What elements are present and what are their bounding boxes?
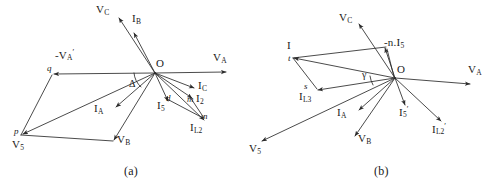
label-a-negVA: -VA′	[55, 49, 74, 62]
construction-a-pq	[21, 75, 52, 135]
label-b-VC: VC	[339, 12, 352, 24]
label-a-I5: I5	[157, 100, 165, 112]
angle-arc-b-gamma	[370, 76, 373, 85]
label-a-V5: V5	[12, 139, 24, 151]
point-a-q: q	[47, 64, 52, 73]
point-b-s: s	[304, 82, 308, 91]
label-b-IA: IA	[337, 107, 346, 119]
caption-a: (a)	[124, 165, 138, 177]
vector-a-VC	[119, 18, 155, 73]
point-a-d: d	[166, 94, 171, 103]
label-b-VA: VA	[468, 64, 482, 76]
label-b-nI5: -n.I5	[384, 37, 404, 49]
label-b-V5: V5	[249, 143, 261, 155]
label-b-IL2p: IL2′	[432, 123, 446, 136]
angle-a-delta: Δ	[129, 79, 136, 89]
label-a-IC: IC	[198, 80, 207, 92]
point-a-n: n	[203, 112, 208, 121]
label-a-VB: VB	[117, 134, 130, 146]
phasor-diagram-figure: VA VC IB IC I2 I5 IL2 IA VB -VA′ V5 O p …	[0, 0, 493, 185]
label-a-VA: VA	[213, 52, 227, 64]
label-b-O: O	[397, 64, 405, 75]
vector-a-VA	[155, 72, 226, 73]
vector-a-IB	[134, 33, 155, 73]
construction-b-nI5-O	[387, 49, 394, 77]
label-a-VC: VC	[96, 4, 109, 16]
construction-b-t-nI5	[293, 47, 386, 58]
label-b-IL3: IL3	[299, 91, 311, 103]
label-b-I5p: I5′	[399, 106, 409, 119]
construction-a-pVB	[21, 135, 113, 141]
point-a-p: p	[14, 127, 19, 136]
label-a-IL2: IL2	[190, 122, 202, 134]
point-b-t: t	[288, 54, 291, 63]
caption-b: (b)	[374, 165, 389, 177]
label-a-IA: IA	[94, 103, 103, 115]
label-b-I: I	[287, 40, 291, 51]
angle-b-gamma: γ	[362, 70, 367, 80]
vector-b-I5p	[395, 78, 405, 105]
vector-canvas	[0, 0, 493, 185]
vector-b-VA	[395, 78, 470, 84]
label-b-VB: VB	[358, 133, 371, 145]
label-a-IB: IB	[132, 13, 141, 25]
label-a-O: O	[156, 58, 164, 69]
label-a-I2: I2	[196, 93, 204, 105]
vector-b-I	[294, 58, 395, 78]
vector-b-V5	[262, 78, 395, 141]
vector-b-VB	[355, 78, 395, 136]
point-a-m: m	[187, 95, 194, 104]
vector-a-negVA	[54, 73, 155, 74]
